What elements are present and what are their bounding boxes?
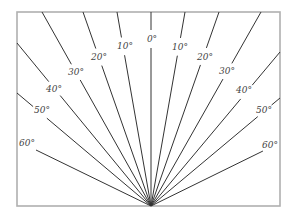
ray-line-right-30 — [232, 12, 261, 63]
angle-label-left-20: 20° — [90, 52, 107, 62]
ray-line-left-50 — [17, 93, 33, 107]
ray-line-left-30 — [42, 12, 71, 64]
angle-label-right-50: 50° — [256, 105, 272, 115]
ray-line-left-40 — [60, 96, 151, 206]
angle-label-right-60: 60° — [262, 140, 278, 150]
ray-line-left-20 — [83, 12, 96, 49]
angle-label-right-30: 30° — [219, 66, 235, 76]
angle-label-left-30: 30° — [68, 67, 84, 77]
angle-label-left-10: 10° — [117, 41, 133, 51]
angle-label-left-50: 50° — [34, 105, 50, 115]
ray-line-right-40 — [151, 99, 241, 206]
angle-label-right-20: 20° — [196, 52, 213, 62]
ray-line-right-50 — [272, 98, 280, 105]
ray-line-left-40 — [17, 43, 49, 82]
ray-line-right-20 — [206, 12, 219, 48]
ray-line-left-60 — [36, 150, 151, 206]
ray-line-left-10 — [117, 12, 121, 37]
angle-label-left-60: 60° — [19, 138, 35, 148]
angle-label-right-10: 10° — [172, 42, 188, 52]
angle-label-left-40: 40° — [45, 84, 62, 94]
ray-line-right-40 — [252, 52, 280, 85]
angle-label-center-0: 0° — [147, 34, 157, 44]
ray-line-right-10 — [180, 12, 185, 38]
angle-label-right-40: 40° — [235, 85, 252, 95]
angle-fan-diagram: 60°50°40°30°20°10°0°10°20°30°40°50°60° — [0, 0, 295, 218]
